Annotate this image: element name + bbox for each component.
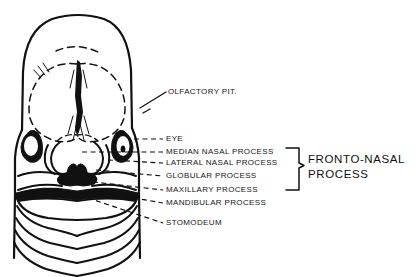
fronto-nasal-line-2: PROCESS bbox=[308, 167, 405, 182]
label-globular-process: GLOBULAR PROCESS bbox=[166, 172, 257, 180]
embryo-face-figure bbox=[0, 0, 419, 277]
stomodeum-cavity bbox=[58, 164, 97, 186]
leader-line-olfactory-pit bbox=[140, 92, 166, 113]
label-eye: EYE bbox=[166, 135, 183, 143]
label-mandibular-process: MANDIBULAR PROCESS bbox=[166, 199, 266, 207]
fronto-nasal-process-bracket bbox=[286, 148, 304, 190]
label-fronto-nasal-process: FRONTO-NASAL PROCESS bbox=[308, 152, 405, 182]
label-olfactory-pit: OLFACTORY PIT. bbox=[168, 88, 237, 96]
label-lateral-nasal-process: LATERAL NASAL PROCESS bbox=[166, 159, 278, 167]
midline-ridge bbox=[75, 60, 83, 136]
label-median-nasal-process: MEDIAN NASAL PROCESS bbox=[166, 148, 274, 156]
label-maxillary-process: MAXILLARY PROCESS bbox=[166, 186, 258, 194]
olfactory-pit-dashed bbox=[57, 135, 98, 141]
leader-lines-dashed bbox=[76, 139, 163, 223]
branchial-arches bbox=[14, 206, 140, 276]
label-stomodeum: STOMODEUM bbox=[166, 219, 222, 227]
forehead-dashed-arc bbox=[56, 47, 98, 52]
diagram-page: OLFACTORY PIT. EYE MEDIAN NASAL PROCESS … bbox=[0, 0, 419, 277]
eye-left bbox=[21, 130, 43, 162]
mandibular-process bbox=[15, 188, 138, 220]
eye-right bbox=[112, 130, 134, 162]
fronto-nasal-line-1: FRONTO-NASAL bbox=[308, 152, 405, 167]
